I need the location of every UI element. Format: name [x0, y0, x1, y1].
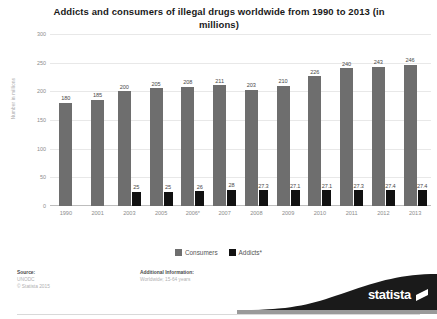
bar-consumers[interactable]: 243 [372, 67, 385, 206]
bar-value-label: 25 [165, 184, 171, 190]
legend-item[interactable]: Addicts* [229, 249, 262, 256]
source-heading: Source: [17, 269, 50, 276]
chart-legend: ConsumersAddicts* [0, 249, 437, 256]
bar-value-label: 27.4 [385, 183, 396, 189]
x-axis-tick-label: 2005 [145, 210, 177, 216]
bar-consumers[interactable]: 200 [118, 91, 131, 206]
x-axis-tick-label: 2003 [114, 210, 146, 216]
legend-swatch [175, 249, 182, 256]
bar-value-label: 27.3 [353, 183, 364, 189]
bar-group: 20327.3 [241, 34, 273, 206]
bar-value-label: 203 [247, 82, 256, 88]
bar-value-label: 208 [183, 79, 192, 85]
bar-value-label: 226 [310, 69, 319, 75]
x-axis-tick-label: 2011 [336, 210, 368, 216]
statista-wordmark: statista [368, 287, 411, 302]
bar-addicts[interactable]: 28 [227, 190, 236, 206]
bar-consumers[interactable]: 210 [277, 86, 290, 206]
bar-value-label: 27.1 [290, 183, 301, 189]
x-axis-tick-labels: 19902001200320052006*2007200820092010201… [50, 210, 431, 216]
legend-item[interactable]: Consumers [175, 249, 218, 256]
x-axis-tick-label: 1990 [50, 210, 82, 216]
bar-addicts[interactable]: 27.1 [291, 190, 300, 206]
x-axis-tick-label: 2009 [272, 210, 304, 216]
copyright-line: © Statista 2015 [17, 283, 50, 290]
bar-group: 24627.4 [399, 34, 431, 206]
chart-bar-groups: 1801852002520525208262112820327.321027.1… [50, 34, 431, 206]
bar-value-label: 27.3 [258, 183, 269, 189]
bar-addicts[interactable]: 25 [164, 192, 173, 206]
bar-addicts[interactable]: 26 [195, 191, 204, 206]
bar-addicts[interactable]: 27.4 [418, 190, 427, 206]
bar-addicts[interactable]: 27.1 [322, 190, 331, 206]
x-axis-tick-label: 2007 [209, 210, 241, 216]
y-axis-tick-label: 50 [22, 174, 46, 180]
y-axis-tick-label: 200 [22, 88, 46, 94]
y-axis-tick-label: 0 [22, 203, 46, 209]
bar-group: 24027.3 [336, 34, 368, 206]
bar-consumers[interactable]: 185 [91, 100, 104, 206]
bar-value-label: 246 [406, 57, 415, 63]
page-title: Addicts and consumers of illegal drugs w… [38, 6, 400, 31]
y-axis-tick-label: 300 [22, 31, 46, 37]
bar-consumers[interactable]: 180 [59, 103, 72, 206]
bar-value-label: 240 [342, 61, 351, 67]
additional-information-heading: Additional Information: [140, 269, 194, 276]
bar-group: 180 [50, 34, 82, 206]
source-name: UNODC [17, 276, 50, 283]
source-block: Source: UNODC © Statista 2015 [17, 269, 50, 290]
bar-group: 20525 [145, 34, 177, 206]
bar-group: 21128 [209, 34, 241, 206]
bar-consumers[interactable]: 226 [308, 76, 321, 206]
bar-addicts[interactable]: 27.4 [386, 190, 395, 206]
y-axis-tick-label: 100 [22, 146, 46, 152]
bar-group: 20025 [114, 34, 146, 206]
bar-group: 22627.1 [304, 34, 336, 206]
x-axis-tick-label: 2010 [304, 210, 336, 216]
y-axis-tick-label: 150 [22, 117, 46, 123]
x-axis-tick-label: 2013 [399, 210, 431, 216]
additional-information-detail: Worldwide; 15-64 years [140, 276, 194, 283]
bar-addicts[interactable]: 27.3 [354, 190, 363, 206]
chart-footer: Source: UNODC © Statista 2015 Additional… [0, 266, 437, 319]
bar-value-label: 200 [120, 84, 129, 90]
bar-addicts[interactable]: 27.3 [259, 190, 268, 206]
bar-addicts[interactable]: 25 [132, 192, 141, 206]
x-axis-tick-label: 2001 [82, 210, 114, 216]
bar-value-label: 26 [197, 184, 203, 190]
x-axis-tick-label: 2006* [177, 210, 209, 216]
footer-divider [17, 314, 420, 315]
bar-group: 21027.1 [272, 34, 304, 206]
bar-group: 20826 [177, 34, 209, 206]
bar-group: 185 [82, 34, 114, 206]
bar-value-label: 180 [61, 95, 70, 101]
legend-swatch [229, 249, 236, 256]
legend-label: Consumers [185, 249, 218, 256]
x-axis-tick-label: 2008 [241, 210, 273, 216]
bar-value-label: 25 [133, 184, 139, 190]
additional-information-block: Additional Information: Worldwide; 15-64… [140, 269, 194, 283]
bar-value-label: 211 [215, 78, 224, 84]
bar-value-label: 205 [152, 81, 161, 87]
bar-value-label: 210 [279, 78, 288, 84]
y-axis-tick-label: 250 [22, 60, 46, 66]
bar-consumers[interactable]: 208 [181, 87, 194, 206]
statista-mark-icon [416, 289, 428, 301]
x-axis-tick-label: 2012 [368, 210, 400, 216]
bar-consumers[interactable]: 246 [404, 65, 417, 206]
bar-value-label: 27.1 [322, 183, 333, 189]
bar-value-label: 185 [93, 92, 102, 98]
bar-group: 24327.4 [368, 34, 400, 206]
bar-value-label: 28 [229, 182, 235, 188]
legend-label: Addicts* [239, 249, 262, 256]
bar-consumers[interactable]: 240 [340, 68, 353, 206]
bar-value-label: 27.4 [417, 183, 428, 189]
y-axis-tick-labels: 050100150200250300 [22, 34, 46, 206]
bar-value-label: 243 [374, 59, 383, 65]
bar-consumers[interactable]: 203 [245, 90, 258, 206]
statista-logo[interactable]: statista [237, 274, 437, 314]
chart-plot-area: Number in millions 050100150200250300 18… [0, 34, 437, 220]
bar-consumers[interactable]: 211 [213, 85, 226, 206]
y-axis-title: Number in millions [11, 64, 16, 134]
bar-consumers[interactable]: 205 [150, 88, 163, 206]
